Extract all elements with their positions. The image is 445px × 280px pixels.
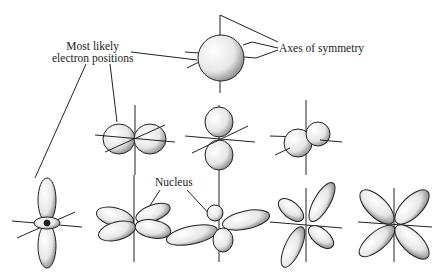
nucleus-label: Nucleus bbox=[155, 176, 193, 188]
px-orbital bbox=[95, 105, 175, 175]
dxy-orbital bbox=[270, 179, 342, 270]
label-line-2: electron positions bbox=[52, 52, 133, 64]
label-line-1: Most likely bbox=[52, 40, 133, 52]
dz2-orbital bbox=[12, 178, 82, 268]
dx2y2-orbital bbox=[354, 184, 434, 264]
dyz-orbital bbox=[165, 175, 272, 262]
pz-orbital bbox=[270, 100, 342, 175]
axes-of-symmetry-label: Axes of symmetry bbox=[279, 42, 364, 54]
dxz-orbital bbox=[94, 175, 172, 262]
electron-positions-label: Most likely electron positions bbox=[52, 40, 133, 64]
py-orbital bbox=[185, 105, 255, 175]
